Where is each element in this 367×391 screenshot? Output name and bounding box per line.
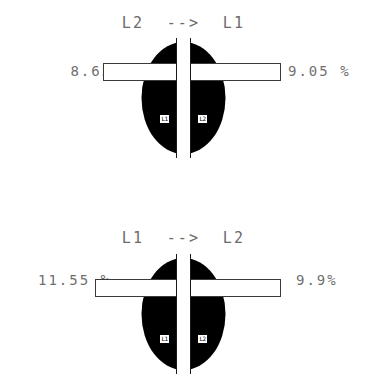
- node-tag-right: L2: [197, 114, 208, 124]
- schematic-body: L1 L2: [0, 258, 367, 370]
- right-bar: [182, 279, 281, 297]
- right-bar: [182, 63, 281, 81]
- diagram-figure-top: L2 --> L1 8.65 % 9.05 % L1 L2: [0, 0, 367, 196]
- center-channel: [176, 254, 191, 374]
- center-channel: [176, 38, 191, 158]
- node-tag-left: L1: [159, 114, 170, 124]
- node-tag-left: L1: [159, 334, 170, 344]
- figure-title: L1 --> L2: [0, 229, 367, 247]
- diagram-figure-bottom: L1 --> L2 11.55 % 9.9% L1 L2: [0, 196, 367, 391]
- schematic-body: L1 L2: [0, 42, 367, 154]
- left-bar: [95, 279, 185, 297]
- left-bar: [103, 63, 185, 81]
- figure-title: L2 --> L1: [0, 14, 367, 32]
- node-tag-right: L2: [197, 334, 208, 344]
